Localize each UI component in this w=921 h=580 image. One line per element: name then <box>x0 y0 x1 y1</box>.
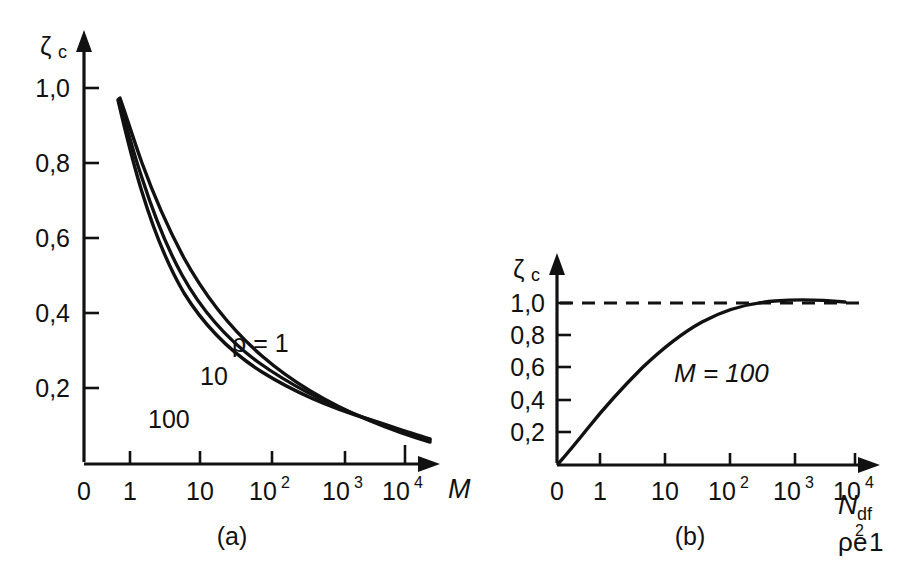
panel-b-x-axis-label-tail: 1 <box>869 527 883 557</box>
panel-a-x-tick-label-1000-exponent: 3 <box>354 474 363 491</box>
panel-a-y-tick-label-2: 0,8 <box>35 149 70 177</box>
panel-a-curve-rho-100 <box>118 100 430 439</box>
panel-b-x-tick-label-10: 10 <box>651 477 679 505</box>
panel-b-caption: (b) <box>675 522 706 550</box>
panel-b-y-tick-label-3: 0,6 <box>510 353 545 381</box>
panel-a-x-tick-label-1: 1 <box>123 477 137 505</box>
panel-a-y-axis-arrow <box>76 30 92 52</box>
panel-a-x-tick-label-10000-exponent: 4 <box>414 474 423 491</box>
panel-a-x-tick-label-1000-base: 10 <box>322 477 350 505</box>
panel-b-y-axis-label-subscript: c <box>531 265 540 285</box>
panel-a-y-tick-label-3: 0,6 <box>35 224 70 252</box>
panel-a-curve-label-rho-1: ρ = 1 <box>232 329 289 357</box>
panel-a-curve-label-100: 100 <box>148 405 190 433</box>
panel-a-x-tick-label-10000-base: 10 <box>382 477 410 505</box>
panel-b-y-tick-label-4: 0,4 <box>510 386 545 414</box>
panel-b-x-tick-label-100-base: 10 <box>708 477 736 505</box>
figure-canvas: ζ c 1,0 0,8 0,6 0,4 0,2 0 1 10 10 2 10 3… <box>0 0 921 580</box>
figure-container: ζ c 1,0 0,8 0,6 0,4 0,2 0 1 10 10 2 10 3… <box>0 0 921 580</box>
panel-a-x-tick-label-0: 0 <box>77 477 91 505</box>
panel-a-y-tick-label-5: 0,2 <box>35 374 70 402</box>
panel-b-x-axis-arrow <box>858 457 880 473</box>
panel-a-x-axis-label: M <box>448 474 471 504</box>
panel-a-x-tick-label-100-exponent: 2 <box>281 474 290 491</box>
panel-b-curve-label-m-100: M = 100 <box>674 358 769 388</box>
panel-b-x-tick-label-10000-exponent: 4 <box>865 474 874 491</box>
panel-b-y-tick-label-1: 1,0 <box>510 289 545 317</box>
panel-a-y-tick-label-4: 0,4 <box>35 299 70 327</box>
panel-b-x-tick-label-100-exponent: 2 <box>740 474 749 491</box>
panel-b-y-axis-label: ζ <box>513 254 524 284</box>
panel-b-x-tick-label-1000-exponent: 3 <box>805 474 814 491</box>
panel-b-x-tick-label-0: 0 <box>550 477 564 505</box>
panel-a-x-tick-label-100-base: 10 <box>249 477 277 505</box>
panel-a-curve-rho-10 <box>119 99 430 440</box>
panel-a-y-axis-label: ζ <box>40 31 51 61</box>
panel-a: ζ c 1,0 0,8 0,6 0,4 0,2 0 1 10 10 2 10 3… <box>35 30 471 550</box>
panel-b-x-axis-label-e-exponent: 2 <box>855 522 864 539</box>
panel-b-y-tick-label-2: 0,8 <box>510 321 545 349</box>
panel-b-x-axis-label-numerator: N <box>838 490 858 520</box>
panel-b-x-tick-label-1000-base: 10 <box>773 477 801 505</box>
panel-b-y-axis-arrow <box>549 253 565 275</box>
panel-a-y-tick-label-1: 1,0 <box>35 74 70 102</box>
panel-a-curve-rho-1 <box>120 98 430 442</box>
panel-a-y-axis-label-subscript: c <box>58 42 67 62</box>
panel-a-x-axis-arrow <box>418 456 440 472</box>
panel-a-caption: (a) <box>217 522 248 550</box>
panel-a-curve-label-10: 10 <box>200 362 228 390</box>
panel-b-y-tick-label-5: 0,2 <box>510 418 545 446</box>
panel-b: ζ c 1,0 0,8 0,6 0,4 0,2 0 1 10 10 2 10 3… <box>510 253 883 557</box>
panel-b-x-tick-label-1: 1 <box>593 477 607 505</box>
panel-b-x-axis-label-numerator-subscript: df <box>857 504 873 524</box>
panel-b-x-axis-label-rho: ρ <box>838 527 853 557</box>
panel-a-x-tick-label-10: 10 <box>186 477 214 505</box>
